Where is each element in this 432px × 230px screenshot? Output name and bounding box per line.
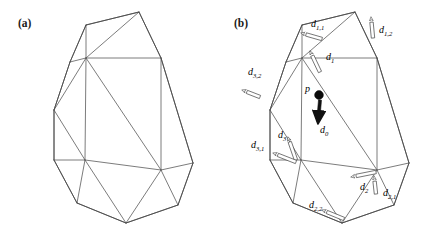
vector-arrow-d2_2: [326, 210, 344, 220]
vector-label-d1: d1: [326, 51, 334, 64]
mesh-edge: [270, 58, 302, 110]
vector-label-d3_1: d3,1: [251, 139, 264, 152]
vector-arrow-d1_2: [370, 22, 375, 38]
point-p-label: p: [304, 83, 310, 94]
panel-b-mesh-annotated: (b) p d0d1d1,1d1,2d2d2,1d2,2d3d3,1d3,2: [216, 0, 432, 230]
mesh-edge: [54, 58, 86, 110]
mesh-edge: [293, 160, 301, 203]
panel-b-edges: [270, 12, 409, 223]
mesh-edge: [77, 160, 85, 203]
vector-arrow-d1_1: [306, 33, 323, 41]
vector-label-d2_1: d2,1: [383, 187, 396, 200]
vector-label-d0: d0: [320, 124, 329, 137]
vector-label-d1_2: d1,2: [379, 24, 393, 37]
vector-arrow-d0: [317, 100, 322, 118]
mesh-edge: [85, 160, 126, 223]
vector-arrow-d2_1: [373, 181, 378, 194]
mesh-edge: [342, 170, 377, 223]
panel-a-outline: [54, 12, 193, 223]
panel-b-outline: [270, 12, 409, 223]
panel-a-mesh: (a): [0, 0, 216, 230]
vector-label-d2_2: d2,2: [309, 199, 323, 212]
mesh-edge: [85, 160, 161, 170]
panel-a-caption: (a): [18, 17, 32, 30]
point-p-marker: [315, 91, 324, 100]
panel-a-edges: [54, 12, 193, 223]
mesh-edge: [54, 110, 85, 160]
mesh-edge: [161, 163, 193, 170]
mesh-edge: [377, 163, 409, 170]
vector-label-d3_2: d3,2: [248, 66, 262, 79]
mesh-edge: [86, 58, 161, 170]
vector-label-d3: d3: [278, 129, 287, 142]
mesh-edge: [126, 170, 161, 223]
mesh-edge: [161, 170, 178, 205]
mesh-edge: [85, 58, 86, 160]
mesh-edge: [301, 58, 302, 160]
mesh-edge: [302, 58, 377, 170]
vector-arrow-d3_2: [246, 90, 260, 98]
vector-arrow-d2: [356, 170, 377, 177]
mesh-edge: [301, 160, 377, 170]
direction-vector-arrows: [242, 17, 378, 221]
panel-b-caption: (b): [234, 17, 248, 30]
figure-container: (a) (b) p d0d1d1,1d1,2d2d2,1d2,2d3d3,1d3…: [0, 0, 432, 230]
vector-label-d2: d2: [360, 181, 369, 194]
